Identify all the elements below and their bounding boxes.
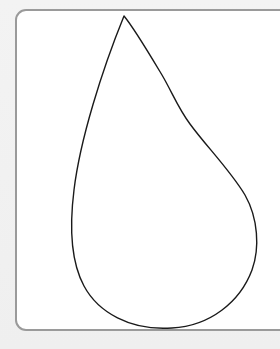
drawing-card <box>15 9 280 331</box>
drawing-canvas <box>0 0 280 349</box>
